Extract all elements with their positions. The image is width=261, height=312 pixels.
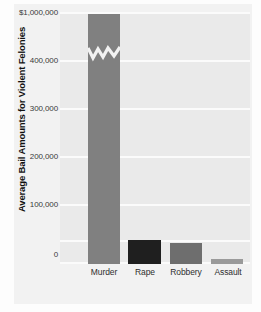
bar-robbery	[170, 243, 202, 264]
plot-area	[60, 12, 250, 264]
y-tick-label: 200,000	[2, 152, 58, 161]
y-tick-label: 300,000	[2, 104, 58, 113]
figure-page: Average Bail Amounts for Violent Felonie…	[0, 0, 261, 312]
x-axis-tick-labels: Murder Rape Robbery Assault	[60, 267, 250, 281]
y-axis-tick-labels: $1,000,000 400,000 300,000 200,000 100,0…	[0, 12, 58, 264]
y-tick-label: 100,000	[2, 200, 58, 209]
x-tick-label-assault: Assault	[200, 267, 256, 277]
y-tick-label: $1,000,000	[2, 8, 58, 17]
bar-rape	[128, 240, 161, 264]
bar-assault	[211, 259, 243, 264]
y-tick-label: 400,000	[2, 56, 58, 65]
bar-murder	[88, 14, 120, 264]
y-tick-label: 0	[2, 250, 58, 259]
